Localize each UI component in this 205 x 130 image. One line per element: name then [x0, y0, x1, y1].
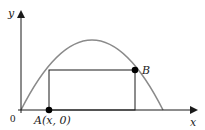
point-b-label: B	[141, 64, 150, 77]
y-axis-label: y	[7, 7, 15, 20]
point-a	[46, 107, 53, 114]
x-axis-label: x	[190, 116, 197, 129]
point-a-label: A(x, 0)	[33, 114, 71, 127]
inscribed-rectangle	[49, 70, 135, 110]
parabola-diagram: y x 0 A(x, 0) B	[0, 0, 205, 130]
point-b	[132, 67, 139, 74]
origin-label: 0	[10, 112, 16, 124]
